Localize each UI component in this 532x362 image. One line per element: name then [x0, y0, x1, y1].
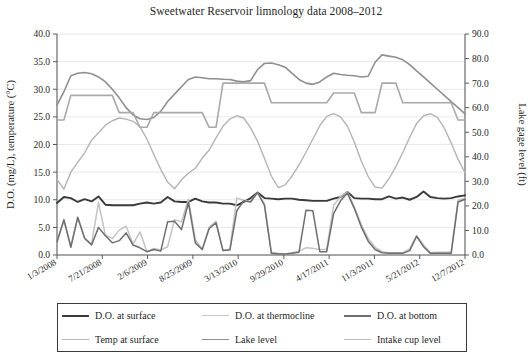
- svg-text:7/21/2008: 7/21/2008: [67, 257, 104, 284]
- svg-text:70.0: 70.0: [472, 79, 489, 89]
- legend-label: Intake cup level: [377, 334, 441, 345]
- series-line: [57, 192, 465, 254]
- svg-text:25.0: 25.0: [33, 112, 50, 122]
- legend-line-icon: [202, 315, 229, 316]
- svg-text:20.0: 20.0: [33, 140, 50, 150]
- svg-text:10.0: 10.0: [33, 195, 50, 205]
- legend-label: D.O. at thermocline: [235, 310, 314, 321]
- svg-text:3/13/2010: 3/13/2010: [203, 257, 240, 284]
- legend-item[interactable]: D.O. at bottom: [344, 310, 472, 321]
- legend-item[interactable]: Lake level: [202, 334, 344, 345]
- svg-text:30.0: 30.0: [33, 85, 50, 95]
- svg-text:15.0: 15.0: [33, 168, 50, 178]
- legend-line-icon: [62, 339, 89, 340]
- series-line: [57, 114, 465, 190]
- svg-text:8/25/2009: 8/25/2009: [157, 257, 194, 284]
- svg-text:30.0: 30.0: [472, 177, 489, 187]
- y-axis-ticks: 0.05.010.015.020.025.030.035.040.0: [33, 29, 57, 260]
- legend-label: D.O. at bottom: [377, 310, 437, 321]
- legend-item[interactable]: Temp at surface: [62, 334, 202, 345]
- svg-text:40.0: 40.0: [472, 152, 489, 162]
- legend-label: Temp at surface: [95, 334, 159, 345]
- svg-text:40.0: 40.0: [33, 29, 50, 39]
- svg-text:90.0: 90.0: [472, 29, 489, 39]
- svg-text:5.0: 5.0: [38, 223, 50, 233]
- series-line: [57, 193, 465, 254]
- legend-label: D.O. at surface: [95, 310, 156, 321]
- svg-text:9/29/2010: 9/29/2010: [248, 257, 285, 284]
- data-series-group: [57, 55, 465, 254]
- legend-line-icon: [62, 315, 89, 317]
- chart-page: Sweetwater Reservoir limnology data 2008…: [0, 0, 532, 362]
- svg-text:35.0: 35.0: [33, 57, 50, 67]
- chart-legend: D.O. at surfaceD.O. at thermoclineD.O. a…: [57, 303, 467, 352]
- legend-item[interactable]: D.O. at surface: [62, 310, 202, 321]
- svg-text:4/17/2011: 4/17/2011: [294, 257, 330, 284]
- svg-text:12/7/2012: 12/7/2012: [429, 257, 466, 284]
- svg-text:2/6/2009: 2/6/2009: [116, 257, 149, 282]
- legend-label: Lake level: [235, 334, 277, 345]
- svg-text:0.0: 0.0: [472, 250, 484, 260]
- legend-line-icon: [202, 339, 229, 340]
- svg-text:50.0: 50.0: [472, 128, 489, 138]
- series-line: [57, 83, 465, 127]
- svg-text:11/3/2011: 11/3/2011: [339, 257, 375, 284]
- legend-line-icon: [344, 339, 371, 340]
- x-axis-ticks: 1/3/20087/21/20082/6/20098/25/20093/13/2…: [25, 255, 466, 284]
- y-axis-label: D.O. (mg/L), temperature (°C): [5, 80, 17, 209]
- svg-text:5/21/2012: 5/21/2012: [384, 257, 421, 284]
- svg-text:20.0: 20.0: [472, 201, 489, 211]
- y2-axis-ticks: 0.010.020.030.040.050.060.070.080.090.0: [465, 29, 489, 260]
- y2-axis-label: Lake gage level (ft): [516, 103, 528, 186]
- legend-item[interactable]: D.O. at thermocline: [202, 310, 344, 321]
- svg-text:80.0: 80.0: [472, 54, 489, 64]
- legend-line-icon: [344, 315, 371, 317]
- chart-plot-area: 0.05.010.015.020.025.030.035.040.0 0.010…: [0, 0, 532, 300]
- svg-text:60.0: 60.0: [472, 103, 489, 113]
- svg-text:1/3/2008: 1/3/2008: [25, 257, 58, 282]
- svg-text:10.0: 10.0: [472, 226, 489, 236]
- legend-item[interactable]: Intake cup level: [344, 334, 472, 345]
